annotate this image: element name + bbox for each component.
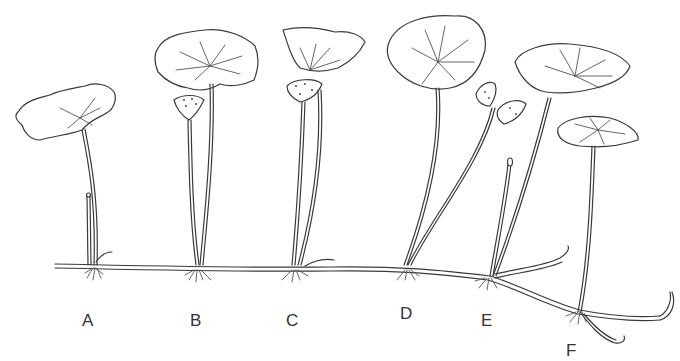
plant-f: [515, 44, 638, 312]
plant-c: [283, 28, 365, 265]
label-c: C: [286, 312, 298, 329]
plant-b: [155, 30, 258, 265]
label-e: E: [481, 312, 492, 329]
plant-a: [16, 84, 115, 265]
label-f: F: [566, 342, 576, 359]
label-a: A: [82, 312, 93, 329]
label-d: D: [400, 305, 412, 322]
roots: [85, 268, 586, 324]
plant-d: [387, 16, 526, 265]
label-b: B: [190, 312, 201, 329]
botanical-figure: A B C D E F: [0, 0, 680, 361]
plant-drawing: [0, 0, 680, 361]
plant-e: [490, 98, 551, 276]
